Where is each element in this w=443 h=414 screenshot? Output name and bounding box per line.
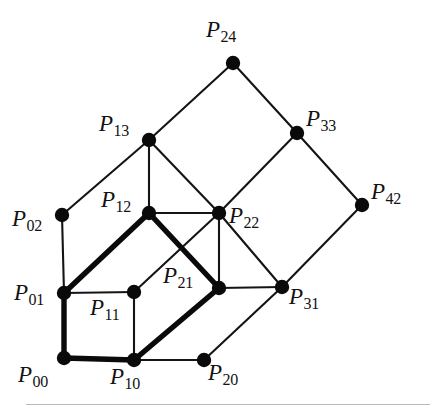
node-label-subscript: 00	[33, 373, 49, 390]
node-label-subscript: 02	[27, 217, 43, 234]
node-label-base: P	[18, 362, 32, 387]
lattice-graph-svg	[0, 0, 443, 414]
node-label-p21: P21	[163, 264, 193, 287]
node-label-p13: P13	[99, 112, 129, 135]
vertex-dot-p21	[212, 281, 226, 295]
vertex-dot-p12	[142, 206, 156, 220]
vertex-dot-p42	[355, 198, 369, 212]
node-label-subscript: 33	[321, 117, 337, 134]
edge-p33-p22	[219, 133, 297, 213]
node-label-base: P	[110, 364, 124, 389]
vertex-dot-p24	[226, 56, 240, 70]
figure-root: P00P10P20P01P11P21P31P02P12P22P42P13P33P…	[0, 0, 443, 414]
vertex-dot-p22	[212, 206, 226, 220]
node-label-subscript: 31	[304, 295, 320, 312]
bold-edge-p01-p12	[64, 213, 149, 293]
node-label-p22: P22	[229, 204, 259, 227]
node-label-p12: P12	[101, 188, 131, 211]
node-label-subscript: 20	[223, 371, 239, 388]
vertex-dot-p33	[290, 126, 304, 140]
node-label-base: P	[206, 17, 220, 42]
edge-p24-p33	[233, 63, 297, 133]
node-label-base: P	[289, 284, 303, 309]
node-label-subscript: 01	[29, 291, 45, 308]
node-label-p11: P11	[90, 296, 119, 319]
edge-p01-p11	[64, 292, 134, 293]
node-label-base: P	[208, 360, 222, 385]
node-label-p01: P01	[14, 281, 44, 304]
edge-p42-p31	[282, 205, 362, 287]
node-label-base: P	[371, 179, 385, 204]
node-label-p33: P33	[306, 107, 336, 130]
vertex-dot-p11	[127, 285, 141, 299]
edge-p21-p31	[219, 287, 282, 288]
node-label-base: P	[229, 203, 243, 228]
edge-p33-p42	[297, 133, 362, 205]
vertex-dot-p02	[55, 208, 69, 222]
node-label-subscript: 42	[386, 190, 402, 207]
node-label-subscript: 24	[221, 28, 237, 45]
bold-edge-p10-p00	[64, 358, 134, 360]
bottom-divider-rule	[26, 404, 430, 405]
node-label-base: P	[99, 111, 113, 136]
node-label-base: P	[14, 280, 28, 305]
vertex-dot-p01	[57, 286, 71, 300]
bold-edge-p21-p10	[134, 288, 219, 360]
node-label-base: P	[90, 295, 104, 320]
node-label-base: P	[12, 206, 26, 231]
node-label-p00: P00	[18, 363, 48, 386]
node-label-p24: P24	[206, 18, 236, 41]
node-label-base: P	[101, 187, 115, 212]
node-label-p20: P20	[208, 361, 238, 384]
node-label-p10: P10	[110, 365, 140, 388]
node-label-subscript: 13	[114, 122, 130, 139]
edge-p13-p24	[149, 63, 233, 140]
edge-p20-p31	[204, 287, 282, 360]
vertex-dot-p00	[57, 351, 71, 365]
node-label-subscript: 21	[178, 274, 194, 291]
node-label-base: P	[306, 106, 320, 131]
node-label-subscript: 11	[105, 306, 120, 323]
node-label-subscript: 12	[116, 198, 132, 215]
node-label-p02: P02	[12, 207, 42, 230]
node-label-p42: P42	[371, 180, 401, 203]
edge-p02-p01	[62, 215, 64, 293]
vertex-dot-p31	[275, 280, 289, 294]
node-label-base: P	[163, 263, 177, 288]
edge-p13-p22	[149, 140, 219, 213]
node-label-subscript: 10	[125, 375, 141, 392]
node-label-p31: P31	[289, 285, 319, 308]
vertex-dot-p13	[142, 133, 156, 147]
node-label-subscript: 22	[244, 214, 260, 231]
